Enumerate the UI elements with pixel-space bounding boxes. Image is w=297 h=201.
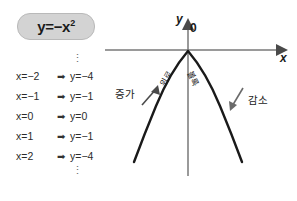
value-table: ⋮ x=−2 ➡ y=−4 x=−1 ➡ y=−1 x=0 ➡ y=0 x=1 … <box>8 54 112 178</box>
table-row: x=1 ➡ y=−1 <box>8 126 112 146</box>
arrow-icon: ➡ <box>52 131 70 142</box>
arrow-icon: ➡ <box>52 111 70 122</box>
x-value: x=1 <box>8 130 52 142</box>
origin-label: 0 <box>190 21 197 35</box>
equation-base: y=−x <box>37 18 70 35</box>
x-value: x=2 <box>8 150 52 162</box>
decrease-label: 감소 <box>248 92 268 107</box>
equation-box: y=−x2 <box>17 13 95 40</box>
equation-exponent: 2 <box>70 18 75 28</box>
decrease-arrow-head <box>229 101 237 111</box>
x-axis-label: x <box>280 51 287 65</box>
increase-label: 증가 <box>115 86 135 101</box>
ellipsis-bottom: ⋮ <box>8 166 112 178</box>
ellipsis-top: ⋮ <box>8 54 112 66</box>
arrow-icon: ➡ <box>52 71 70 82</box>
table-row: x=2 ➡ y=−4 <box>8 146 112 166</box>
arrow-icon: ➡ <box>52 151 70 162</box>
worksheet-page: y=−x2 ⋮ x=−2 ➡ y=−4 x=−1 ➡ y=−1 x=0 ➡ y=… <box>0 0 297 201</box>
equation-text: y=−x2 <box>37 18 75 35</box>
arrow-icon: ➡ <box>52 91 70 102</box>
x-value: x=−1 <box>8 90 52 102</box>
parabola-graph: y x 0 증가 감소 위로 볼록 <box>100 0 297 201</box>
y-axis-label: y <box>176 12 183 26</box>
table-row: x=−2 ➡ y=−4 <box>8 66 112 86</box>
x-value: x=0 <box>8 110 52 122</box>
table-row: x=−1 ➡ y=−1 <box>8 86 112 106</box>
table-row: x=0 ➡ y=0 <box>8 106 112 126</box>
x-value: x=−2 <box>8 70 52 82</box>
